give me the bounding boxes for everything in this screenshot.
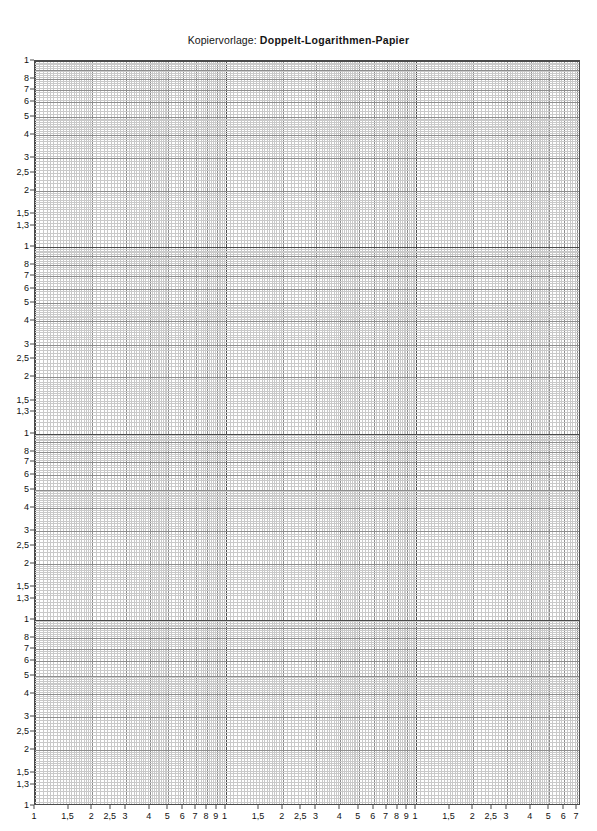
x-axis-tick (563, 805, 564, 809)
gridline-horizontal (35, 236, 579, 237)
gridline-horizontal (35, 765, 579, 766)
gridline-horizontal (35, 217, 579, 218)
x-axis-tick (315, 805, 316, 809)
x-axis-tick-label: 1,5 (252, 811, 265, 821)
gridline-horizontal (35, 276, 579, 277)
gridline-horizontal (35, 696, 579, 697)
gridline-horizontal (35, 720, 579, 721)
gridline-horizontal (35, 495, 579, 496)
gridline-horizontal (35, 512, 579, 513)
gridline-horizontal (35, 698, 579, 699)
gridline-horizontal (35, 308, 579, 309)
gridline-horizontal (35, 692, 579, 693)
gridline-horizontal (35, 332, 579, 333)
gridline-horizontal (35, 670, 579, 671)
y-axis-tick (30, 101, 34, 102)
gridline-horizontal (35, 170, 579, 171)
gridline-horizontal (35, 439, 579, 440)
gridline-horizontal (35, 303, 579, 304)
gridline-horizontal (35, 593, 579, 594)
gridline-horizontal (35, 446, 579, 447)
gridline-horizontal (35, 79, 579, 80)
gridline-horizontal (35, 151, 579, 152)
gridline-horizontal (35, 126, 579, 127)
gridline-horizontal (35, 739, 579, 740)
gridline-horizontal (35, 267, 579, 268)
gridline-horizontal (35, 393, 579, 394)
y-axis-tick-label: 1,3 (16, 220, 29, 230)
y-axis-tick (30, 172, 34, 173)
x-axis-tick (124, 805, 125, 809)
x-axis-tick (415, 805, 416, 809)
gridline-horizontal (35, 539, 579, 540)
gridline-horizontal (35, 763, 579, 764)
y-axis-tick (30, 473, 34, 474)
x-axis-tick (67, 805, 68, 809)
gridline-horizontal (35, 131, 579, 132)
x-axis-tick-label: 5 (165, 811, 170, 821)
gridline-horizontal (35, 616, 579, 617)
x-axis-tick (472, 805, 473, 809)
y-axis-tick (30, 748, 34, 749)
x-axis-tick-label: 6 (180, 811, 185, 821)
gridline-horizontal (35, 144, 579, 145)
gridline-horizontal (35, 259, 579, 260)
gridline-horizontal (35, 85, 579, 86)
y-axis-tick-label: 8 (24, 446, 29, 456)
gridline-horizontal (35, 129, 579, 130)
x-axis-tick-label: 1 (31, 811, 36, 821)
gridline-horizontal (35, 265, 579, 266)
gridline-horizontal (35, 68, 579, 69)
gridline-horizontal (35, 475, 579, 476)
gridline-horizontal (35, 251, 579, 252)
y-axis-tick (30, 450, 34, 451)
x-axis-tick-label: 3 (122, 811, 127, 821)
y-axis-tick-label: 1,5 (16, 208, 29, 218)
y-axis-tick-label: 4 (24, 315, 29, 325)
gridline-horizontal (35, 233, 579, 234)
gridline-horizontal (35, 714, 579, 715)
y-axis-tick (30, 544, 34, 545)
gridline-horizontal (35, 328, 579, 329)
y-axis-tick-label: 5 (24, 670, 29, 680)
y-axis-tick (30, 78, 34, 79)
gridline-horizontal (35, 124, 579, 125)
gridline-horizontal (35, 153, 579, 154)
y-axis-tick-label: 2,5 (16, 353, 29, 363)
y-axis-tick (30, 320, 34, 321)
x-axis-tick (576, 805, 577, 809)
gridline-horizontal (35, 176, 579, 177)
gridline-horizontal (35, 782, 579, 783)
gridline-horizontal (35, 470, 579, 471)
gridline-horizontal (35, 88, 579, 89)
x-axis-tick (357, 805, 358, 809)
log-log-graph-paper-sheet: Kopiervorlage: Doppelt-Logarithmen-Papie… (0, 0, 597, 831)
gridline-horizontal (35, 776, 579, 777)
gridline-horizontal (35, 300, 579, 301)
gridline-horizontal (35, 444, 579, 445)
gridline-horizontal (35, 353, 579, 354)
gridline-horizontal (35, 77, 579, 78)
x-axis-tick (505, 805, 506, 809)
page-title-main: Doppelt-Logarithmen-Papier (260, 34, 410, 46)
y-axis-tick-label: 1,3 (16, 406, 29, 416)
x-axis-tick-label: 3 (503, 811, 508, 821)
gridline-horizontal (35, 521, 579, 522)
gridline-horizontal (35, 570, 579, 571)
gridline-horizontal (35, 173, 579, 174)
gridline-horizontal (35, 750, 579, 751)
gridline-horizontal (35, 656, 579, 657)
gridline-horizontal (35, 337, 579, 338)
gridline-horizontal (35, 491, 579, 492)
gridline-horizontal (35, 283, 579, 284)
y-axis-tick-label: 3 (24, 711, 29, 721)
x-axis-tick (167, 805, 168, 809)
y-axis-tick (30, 692, 34, 693)
gridline-horizontal (35, 403, 579, 404)
gridline-horizontal (35, 564, 579, 565)
gridline-horizontal (35, 335, 579, 336)
gridline-horizontal (35, 510, 579, 511)
y-axis-tick-label: 8 (24, 259, 29, 269)
x-axis-tick-label: 2 (89, 811, 94, 821)
gridline-horizontal (35, 191, 579, 192)
